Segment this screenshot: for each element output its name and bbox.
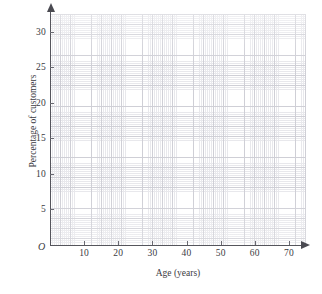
y-tick-mark bbox=[50, 103, 54, 104]
x-axis-line bbox=[50, 245, 304, 246]
x-axis-title: Age (years) bbox=[50, 268, 306, 278]
x-tick-mark bbox=[84, 241, 85, 245]
x-tick-label: 50 bbox=[206, 248, 236, 258]
major-gridlines bbox=[50, 14, 306, 245]
x-tick-label: 20 bbox=[103, 248, 133, 258]
x-tick-label: 10 bbox=[69, 248, 99, 258]
blank-grid-chart: 10203040506070 51015202530 O Age (years)… bbox=[0, 0, 322, 294]
x-tick-mark bbox=[187, 241, 188, 245]
x-tick-mark bbox=[118, 241, 119, 245]
y-tick-mark bbox=[50, 67, 54, 68]
plot-area[interactable] bbox=[50, 14, 306, 245]
x-tick-label: 70 bbox=[274, 248, 304, 258]
x-tick-label: 60 bbox=[240, 248, 270, 258]
x-tick-label: 40 bbox=[172, 248, 202, 258]
y-axis-arrow-icon bbox=[47, 3, 55, 12]
x-tick-mark bbox=[221, 241, 222, 245]
y-tick-mark bbox=[50, 138, 54, 139]
y-axis-title: Percentage of customers bbox=[28, 26, 38, 216]
y-tick-mark bbox=[50, 209, 54, 210]
x-tick-mark bbox=[255, 241, 256, 245]
y-tick-mark bbox=[50, 174, 54, 175]
y-tick-mark bbox=[50, 32, 54, 33]
x-tick-mark bbox=[152, 241, 153, 245]
x-tick-label: 30 bbox=[137, 248, 167, 258]
origin-label: O bbox=[38, 241, 45, 252]
x-tick-mark bbox=[289, 241, 290, 245]
